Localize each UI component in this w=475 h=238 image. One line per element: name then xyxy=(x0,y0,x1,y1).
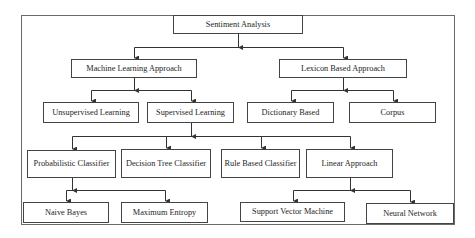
node-unsup: Unsupervised Learning xyxy=(43,102,139,123)
node-nb: Naive Bayes xyxy=(23,202,109,223)
node-maxent: Maximum Entropy xyxy=(121,202,208,223)
node-corpus: Corpus xyxy=(349,102,436,123)
node-dtree: Decision Tree Classifier xyxy=(121,149,211,178)
node-linear: Linear Approach xyxy=(306,149,393,178)
node-sup: Supervised Learning xyxy=(147,102,234,123)
node-prob: Probabilistic Classifier xyxy=(27,150,116,178)
node-nn: Neural Network xyxy=(366,203,454,224)
node-rule: Rule Based Classifier xyxy=(221,149,300,178)
node-root: Sentiment Analysis xyxy=(173,15,303,34)
node-ml: Machine Learning Approach xyxy=(71,59,197,78)
node-dict: Dictionary Based xyxy=(247,102,334,123)
node-lex: Lexicon Based Approach xyxy=(279,59,407,78)
node-svm: Support Vector Machine xyxy=(240,202,345,222)
diagram-canvas: Sentiment AnalysisMachine Learning Appro… xyxy=(0,0,475,238)
